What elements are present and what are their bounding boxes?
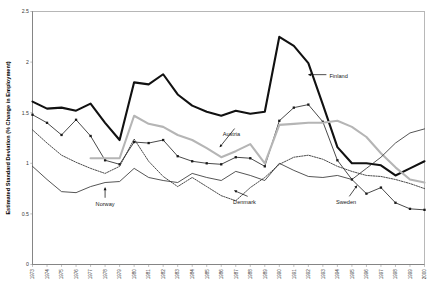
x-tick-label: 1986 (219, 269, 224, 280)
series-label-denmark: Denmark (233, 199, 256, 205)
y-tick-label: 2 (26, 59, 29, 65)
data-point-marker (235, 156, 237, 158)
x-tick-label: 1984 (190, 269, 195, 280)
data-point-marker (177, 155, 179, 157)
series-label-finland: Finland (329, 73, 347, 79)
data-point-marker (60, 134, 62, 136)
x-tick-label: 1991 (292, 269, 297, 280)
x-tick-label: 1979 (117, 269, 122, 280)
x-tick-label: 1992 (306, 269, 311, 280)
x-tick-label: 1997 (379, 269, 384, 280)
data-point-marker (307, 103, 309, 105)
data-point-marker (336, 159, 338, 161)
y-tick-label: 0.5 (22, 211, 29, 217)
x-tick-label: 1978 (103, 269, 108, 280)
data-point-marker (278, 120, 280, 122)
data-point-marker (191, 160, 193, 162)
series-label-austria: Austria (223, 131, 241, 137)
x-tick-label: 1990 (277, 269, 282, 280)
x-tick-label: 1996 (364, 269, 369, 280)
data-point-marker (394, 202, 396, 204)
x-tick-label: 1993 (321, 269, 326, 280)
data-point-marker (104, 159, 106, 161)
data-point-marker (380, 186, 382, 188)
data-point-marker (147, 142, 149, 144)
x-tick-label: 2000 (422, 269, 427, 280)
data-point-marker (75, 119, 77, 121)
x-tick-label: 1988 (248, 269, 253, 280)
data-point-marker (220, 163, 222, 165)
x-tick-label: 1980 (132, 269, 137, 280)
data-point-marker (89, 135, 91, 137)
y-tick-label: 2.5 (22, 8, 29, 14)
data-point-marker (264, 165, 266, 167)
y-tick-label: 0 (26, 261, 29, 267)
x-tick-label: 1995 (350, 269, 355, 280)
x-tick-label: 1981 (146, 269, 151, 280)
x-tick-label: 1985 (205, 269, 210, 280)
x-tick-label: 1977 (88, 269, 93, 280)
data-point-marker (249, 157, 251, 159)
y-tick-label: 1.5 (22, 110, 29, 116)
plot-area (33, 12, 425, 265)
x-tick-label: 1999 (408, 269, 413, 280)
y-axis-title: Estimated Standard Deviation (% Change i… (5, 61, 11, 214)
data-point-marker (293, 106, 295, 108)
data-point-marker (423, 209, 425, 211)
data-point-marker (365, 193, 367, 195)
line-chart: 00.511.522.5 197319741975197619771978197… (0, 0, 435, 301)
data-point-marker (46, 122, 48, 124)
y-tick-label: 1 (26, 160, 29, 166)
data-point-marker (206, 162, 208, 164)
x-tick-label: 1976 (74, 269, 79, 280)
data-point-marker (162, 139, 164, 141)
x-tick-label: 1975 (59, 269, 64, 280)
data-point-marker (409, 208, 411, 210)
x-tick-label: 1987 (234, 269, 239, 280)
x-tick-label: 1973 (30, 269, 35, 280)
series-label-norway: Norway (96, 201, 115, 207)
x-tick-label: 1998 (393, 269, 398, 280)
data-point-marker (31, 114, 33, 116)
x-tick-label: 1994 (335, 269, 340, 280)
x-tick-label: 1989 (263, 269, 268, 280)
x-tick-label: 1983 (175, 269, 180, 280)
chart-container: 00.511.522.5 197319741975197619771978197… (0, 0, 435, 301)
series-label-sweden: Sweden (336, 199, 356, 205)
x-tick-label: 1982 (161, 269, 166, 280)
x-tick-label: 1974 (45, 269, 50, 280)
